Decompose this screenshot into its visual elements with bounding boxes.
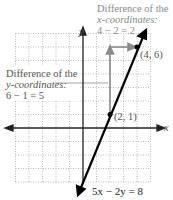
- x-diff-label-line3: 4 − 2 = 2: [97, 25, 135, 36]
- y-diff-label-line1: Difference of the: [6, 68, 78, 79]
- x-axis-label: x: [164, 122, 169, 133]
- y-diff-label-line2: y-coordinates:: [6, 79, 67, 90]
- x-diff-label-line2: x-coordinates:: [97, 14, 158, 25]
- x-axis-left-arrow-icon: [5, 125, 13, 131]
- y-axis-label: y: [79, 26, 84, 37]
- run-arrow: [110, 44, 136, 51]
- point-b-label: (4, 6): [140, 49, 163, 60]
- point-2-1: [108, 112, 113, 117]
- point-4-6: [135, 45, 140, 50]
- rise-arrow: [107, 46, 114, 115]
- line-bottom-arrow-icon: [77, 186, 85, 195]
- point-a-label: (2, 1): [114, 111, 137, 122]
- y-diff-label-line3: 6 − 1 = 5: [6, 90, 44, 101]
- x-diff-label-line1: Difference of the: [97, 3, 169, 14]
- equation-label: 5x − 2y = 8: [92, 186, 143, 197]
